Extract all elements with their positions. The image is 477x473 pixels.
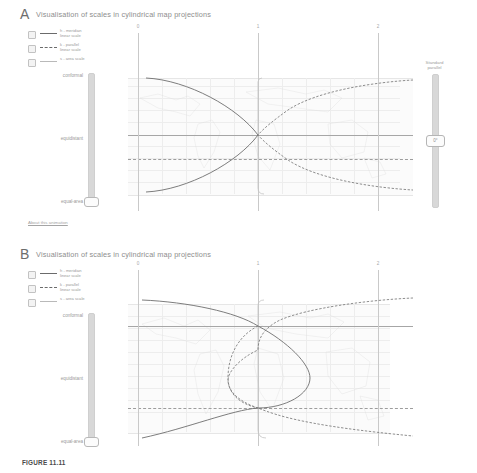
panel-a-letter: A xyxy=(20,6,30,22)
curve-meridian-scale-h xyxy=(146,78,258,192)
legend-label-area: s - area scale xyxy=(60,297,85,302)
projection-label-equidistant: equidistant xyxy=(61,136,83,141)
panel-a-title: Visualisation of scales in cylindrical m… xyxy=(36,10,211,19)
panel-b-letter: B xyxy=(20,246,30,262)
standard-parallel-title: Standard parallel xyxy=(426,60,444,70)
legend-checkbox-meridian[interactable] xyxy=(28,31,36,39)
panel-b-projection-slider[interactable]: conformal equidistant equal-area xyxy=(88,313,94,445)
panel-b-plot: 0 1 2 xyxy=(128,268,413,448)
legend-item-meridian[interactable]: h - meridian linear scale xyxy=(28,269,124,280)
legend-label-meridian-l2: linear scale xyxy=(60,33,81,38)
curve-parallel-scale-k xyxy=(258,80,413,190)
legend-label-meridian: h - meridian linear scale xyxy=(60,29,82,38)
legend-checkbox-meridian[interactable] xyxy=(28,271,36,279)
legend-label-parallel: k - parallel linear scale xyxy=(60,283,81,292)
axis-tick-0: 0 xyxy=(137,261,140,266)
projection-slider-track[interactable] xyxy=(88,313,95,445)
axis-tick-1: 1 xyxy=(257,261,260,266)
projection-slider-handle[interactable] xyxy=(84,437,99,447)
legend-label-parallel-l2: linear scale xyxy=(60,287,81,292)
legend-item-parallel[interactable]: k - parallel linear scale xyxy=(28,43,124,54)
projection-label-conformal: conformal xyxy=(63,313,83,318)
legend-checkbox-parallel[interactable] xyxy=(28,45,36,53)
panel-a-standard-parallel-slider[interactable]: Standard parallel 0° xyxy=(432,60,452,210)
legend-item-area[interactable]: s - area scale xyxy=(28,297,124,308)
panel-a-plot: 0 1 2 xyxy=(128,28,413,213)
legend-checkbox-area[interactable] xyxy=(28,299,36,307)
axis-tick-2: 2 xyxy=(377,261,380,266)
standard-parallel-title-l2: parallel xyxy=(427,65,441,70)
projection-label-conformal: conformal xyxy=(63,73,83,78)
legend-label-meridian: h - meridian linear scale xyxy=(60,269,82,278)
line-dashed-icon xyxy=(40,44,57,52)
legend-label-parallel-l2: linear scale xyxy=(60,47,81,52)
legend-label-meridian-l2: linear scale xyxy=(60,273,81,278)
panel-b-curves xyxy=(128,268,413,448)
projection-label-equal-area: equal-area xyxy=(61,199,83,204)
projection-slider-handle[interactable] xyxy=(84,197,99,207)
legend-checkbox-area[interactable] xyxy=(28,59,36,67)
legend-item-parallel[interactable]: k - parallel linear scale xyxy=(28,283,124,294)
line-light-icon xyxy=(40,58,57,66)
curve-parallel-scale-k xyxy=(228,298,413,436)
curve-parallel-scale-k-inner xyxy=(228,326,258,408)
line-solid-icon xyxy=(40,30,57,38)
panel-a-legend: h - meridian linear scale k - parallel l… xyxy=(28,29,124,72)
line-solid-icon xyxy=(40,270,57,278)
legend-checkbox-parallel[interactable] xyxy=(28,285,36,293)
about-this-animation-link[interactable]: About this animation xyxy=(28,220,68,225)
projection-label-equidistant: equidistant xyxy=(61,376,83,381)
legend-label-parallel: k - parallel linear scale xyxy=(60,43,81,52)
legend-label-area: s - area scale xyxy=(60,57,85,62)
panel-a-projection-slider[interactable]: conformal equidistant equal-area xyxy=(88,73,94,205)
panel-b-title: Visualisation of scales in cylindrical m… xyxy=(36,250,211,259)
legend-item-area[interactable]: s - area scale xyxy=(28,57,124,68)
standard-parallel-handle[interactable]: 0° xyxy=(426,135,445,147)
curve-area-scale-s xyxy=(258,300,266,438)
panel-b: B Visualisation of scales in cylindrical… xyxy=(0,240,477,455)
panel-a-curves xyxy=(128,28,413,213)
line-light-icon xyxy=(40,298,57,306)
panel-b-legend: h - meridian linear scale k - parallel l… xyxy=(28,269,124,312)
figure-caption: FIGURE 11.11 xyxy=(22,459,66,466)
line-dashed-icon xyxy=(40,284,57,292)
projection-label-equal-area: equal-area xyxy=(61,439,83,444)
curve-meridian-scale-h xyxy=(142,300,310,438)
legend-item-meridian[interactable]: h - meridian linear scale xyxy=(28,29,124,40)
panel-a: A Visualisation of scales in cylindrical… xyxy=(0,0,477,238)
projection-slider-track[interactable] xyxy=(88,73,95,205)
